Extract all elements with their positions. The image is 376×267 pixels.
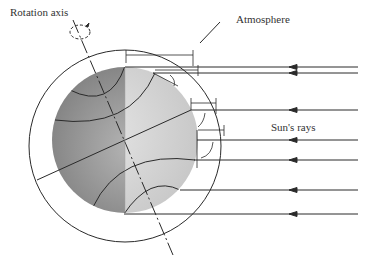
atmosphere-label: Atmosphere [236, 13, 290, 25]
rotation-axis-label: Rotation axis [10, 6, 68, 18]
earth-atmosphere-diagram [0, 0, 376, 267]
suns-rays-label: Sun's rays [271, 121, 315, 133]
atmosphere-leader [200, 22, 220, 43]
